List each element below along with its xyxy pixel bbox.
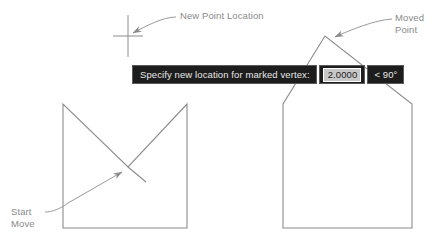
dynamic-input-distance-field[interactable]: 2.0000 [323, 68, 362, 82]
label-start-move: Start Move [11, 206, 35, 229]
cad-drawing-canvas [0, 0, 446, 250]
dynamic-input-prompt-segment: Specify new location for marked vertex: [132, 65, 317, 84]
leader-new-point-location [133, 17, 176, 33]
crosshair-cursor [113, 15, 143, 57]
original-profile-shape [63, 104, 187, 228]
screenshot-root: New Point Location Moved Point Start Mov… [0, 0, 446, 250]
vertex-stub-segment [128, 167, 146, 182]
dynamic-input-bar[interactable]: Specify new location for marked vertex: … [132, 65, 404, 84]
original-profile-outline [63, 104, 187, 228]
dynamic-input-prompt-text: Specify new location for marked vertex: [133, 69, 316, 80]
label-moved-point: Moved Point [395, 12, 424, 35]
dynamic-input-angle-field[interactable]: < 90° [374, 69, 397, 80]
label-new-point-location: New Point Location [180, 10, 264, 22]
dynamic-input-value-segment[interactable]: 2.0000 [319, 65, 366, 84]
leader-start-move [45, 172, 122, 212]
leader-moved-point [335, 19, 392, 37]
dynamic-input-angle-segment[interactable]: < 90° [367, 65, 404, 84]
